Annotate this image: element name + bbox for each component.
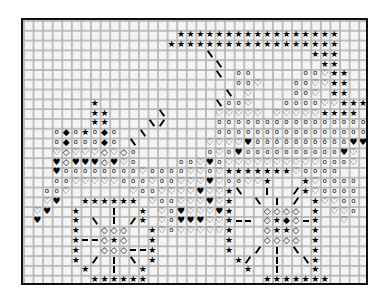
filled-heart-icon: ♥ [205, 196, 215, 206]
small-circle-icon: o [291, 79, 301, 89]
filled-star-icon: ★ [301, 275, 311, 285]
open-heart-icon: ♡ [282, 108, 292, 118]
filled-diamond-icon: ◆ [61, 138, 71, 148]
small-circle-icon: o [291, 118, 301, 128]
small-circle-icon: o [234, 69, 244, 79]
small-circle-icon: o [301, 79, 311, 89]
filled-star-icon: ★ [310, 275, 320, 285]
small-circle-icon: o [52, 187, 62, 197]
filled-diamond-icon: ◆ [100, 138, 110, 148]
filled-heart-icon: ♥ [52, 167, 62, 177]
dash-diagonal-up-icon [291, 187, 301, 197]
filled-heart-icon: ♥ [243, 138, 253, 148]
filled-star-icon: ★ [109, 196, 119, 206]
open-heart-icon: ♡ [330, 98, 340, 108]
small-circle-icon: o [330, 118, 340, 128]
small-circle-icon: o [310, 98, 320, 108]
open-heart-icon: ♡ [195, 226, 205, 236]
filled-star-icon: ★ [339, 108, 349, 118]
small-circle-icon: o [42, 187, 52, 197]
barred-circle-icon: ō [310, 138, 320, 148]
small-circle-icon: o [330, 128, 340, 138]
filled-star-icon: ★ [205, 40, 215, 50]
small-circle-icon: o [320, 128, 330, 138]
open-heart-icon: ♡ [330, 196, 340, 206]
small-circle-icon: o [301, 89, 311, 99]
filled-heart-icon: ♥ [349, 138, 359, 148]
filled-star-icon: ★ [224, 245, 234, 255]
filled-star-icon: ★ [301, 187, 311, 197]
filled-star-icon: ★ [272, 167, 282, 177]
filled-star-icon: ★ [272, 40, 282, 50]
small-circle-icon: o [138, 187, 148, 197]
filled-star-icon: ★ [349, 108, 359, 118]
open-heart-icon: ♡ [330, 206, 340, 216]
small-circle-icon: o [301, 128, 311, 138]
dash-horizontal-icon [243, 216, 253, 226]
open-heart-icon: ♡ [186, 196, 196, 206]
filled-star-icon: ★ [109, 236, 119, 246]
small-circle-icon: o [224, 118, 234, 128]
small-circle-icon: o [243, 69, 253, 79]
small-circle-icon: o [330, 177, 340, 187]
dash-horizontal-icon [128, 245, 138, 255]
open-heart-icon: ♡ [301, 108, 311, 118]
small-circle-icon: o [301, 147, 311, 157]
dash-diagonal-down-icon [215, 59, 225, 69]
filled-star-icon: ★ [330, 89, 340, 99]
small-circle-icon: o [205, 147, 215, 157]
open-heart-icon: ♡ [205, 187, 215, 197]
open-heart-icon: ♡ [301, 157, 311, 167]
open-heart-icon: ♡ [349, 157, 359, 167]
open-heart-icon: ♡ [148, 196, 158, 206]
barred-circle-icon: ō [291, 138, 301, 148]
dash-vertical-icon [272, 196, 282, 206]
dash-diagonal-down-icon [148, 118, 158, 128]
open-heart-icon: ♡ [157, 226, 167, 236]
filled-star-icon: ★ [186, 40, 196, 50]
small-circle-icon: o [253, 128, 263, 138]
small-circle-icon: o [358, 118, 368, 128]
open-diamond-icon: ◇ [291, 236, 301, 246]
filled-star-icon: ★ [148, 255, 158, 265]
small-circle-icon: o [109, 138, 119, 148]
small-circle-icon: o [215, 118, 225, 128]
open-heart-icon: ♡ [243, 108, 253, 118]
filled-star-icon: ★ [100, 275, 110, 285]
filled-star-icon: ★ [195, 40, 205, 50]
filled-star-icon: ★ [320, 108, 330, 118]
dash-diagonal-down-icon [215, 98, 225, 108]
small-circle-icon: o [167, 226, 177, 236]
small-circle-icon: o [282, 147, 292, 157]
open-heart-icon: ♡ [320, 196, 330, 206]
filled-star-icon: ★ [148, 245, 158, 255]
dash-diagonal-down-icon [224, 89, 234, 99]
filled-star-icon: ★ [263, 177, 273, 187]
open-diamond-icon: ◇ [119, 245, 129, 255]
small-circle-icon: o [301, 69, 311, 79]
filled-star-icon: ★ [90, 275, 100, 285]
small-circle-icon: o [330, 187, 340, 197]
small-circle-icon: o [282, 98, 292, 108]
open-heart-icon: ♡ [205, 138, 215, 148]
small-circle-icon: o [349, 206, 359, 216]
filled-star-icon: ★ [119, 275, 129, 285]
small-circle-icon: o [320, 187, 330, 197]
filled-star-icon: ★ [310, 196, 320, 206]
filled-star-icon: ★ [71, 245, 81, 255]
open-diamond-icon: ◇ [119, 236, 129, 246]
filled-star-icon: ★ [291, 40, 301, 50]
small-circle-icon: o [330, 147, 340, 157]
open-heart-icon: ♡ [215, 226, 225, 236]
filled-heart-icon: ♥ [205, 157, 215, 167]
small-circle-icon: o [109, 128, 119, 138]
filled-star-icon: ★ [330, 108, 340, 118]
dash-diagonal-up-icon [157, 118, 167, 128]
barred-circle-icon: ō [263, 138, 273, 148]
dash-horizontal-icon [234, 216, 244, 226]
filled-star-icon: ★ [224, 167, 234, 177]
small-circle-icon: o [61, 167, 71, 177]
filled-star-icon: ★ [272, 275, 282, 285]
filled-star-icon: ★ [80, 265, 90, 275]
small-circle-icon: o [301, 118, 311, 128]
